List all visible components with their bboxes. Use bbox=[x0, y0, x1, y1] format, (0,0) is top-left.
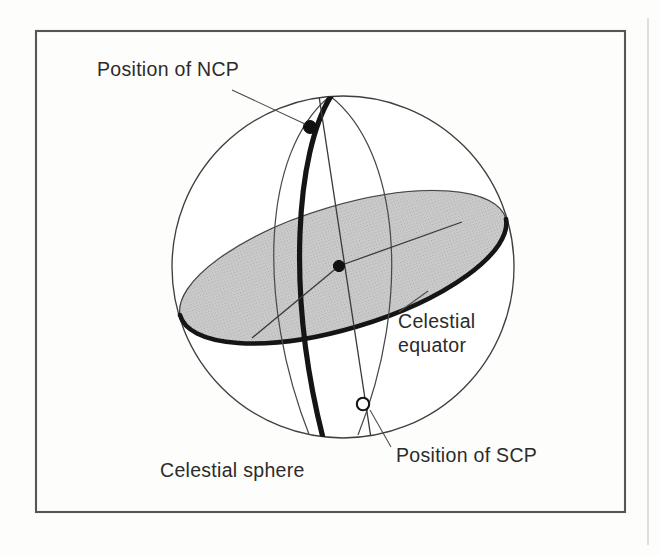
label-celestial-equator-line1: Celestial bbox=[398, 310, 475, 332]
ncp-marker[interactable] bbox=[304, 121, 317, 134]
label-celestial-sphere: Celestial sphere bbox=[160, 459, 305, 481]
celestial-sphere-diagram: Position of NCP Celestial equator Positi… bbox=[0, 0, 660, 555]
sphere-centre-marker[interactable] bbox=[333, 260, 344, 271]
figure-root: Position of NCP Celestial equator Positi… bbox=[0, 0, 660, 555]
label-position-of-ncp: Position of NCP bbox=[97, 58, 239, 80]
label-position-of-scp: Position of SCP bbox=[396, 444, 537, 466]
label-celestial-equator-line2: equator bbox=[398, 334, 466, 356]
scp-marker[interactable] bbox=[357, 398, 369, 410]
